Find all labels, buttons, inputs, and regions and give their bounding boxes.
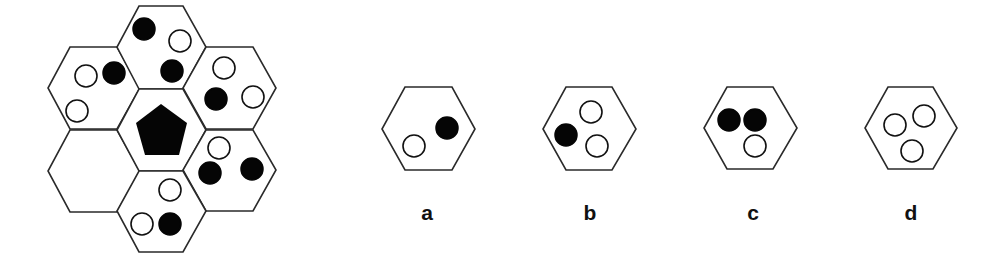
white-dot — [159, 179, 181, 201]
option-c[interactable]: c — [704, 87, 797, 224]
option-label: c — [747, 201, 759, 224]
black-dot — [205, 88, 227, 110]
white-dot — [901, 140, 923, 162]
white-dot — [403, 135, 425, 157]
option-label: b — [584, 201, 597, 224]
white-dot — [744, 135, 766, 157]
black-dot — [103, 62, 125, 84]
option-a[interactable]: a — [382, 87, 475, 224]
white-dot — [913, 105, 935, 127]
black-dot — [436, 117, 458, 139]
puzzle-canvas: a b c d — [0, 0, 1004, 254]
white-dot — [242, 86, 264, 108]
white-dot — [580, 101, 602, 123]
honeycomb-figure — [48, 6, 276, 252]
option-d[interactable]: d — [865, 87, 957, 224]
white-dot — [884, 114, 906, 136]
white-dot — [208, 137, 230, 159]
white-dot — [66, 100, 88, 122]
black-dot — [744, 109, 766, 131]
white-dot — [75, 65, 97, 87]
hexagon-outline — [382, 87, 475, 170]
black-dot — [555, 124, 577, 146]
black-dot — [718, 109, 740, 131]
white-dot — [169, 30, 191, 52]
white-dot — [586, 135, 608, 157]
black-dot — [241, 158, 263, 180]
option-label: d — [905, 201, 918, 224]
black-dot — [199, 162, 221, 184]
black-dot — [159, 213, 181, 235]
black-dot — [133, 18, 155, 40]
white-dot — [131, 213, 153, 235]
option-b[interactable]: b — [543, 87, 636, 224]
black-dot — [161, 60, 183, 82]
answer-options: a b c d — [382, 87, 957, 224]
option-label: a — [421, 201, 433, 224]
white-dot — [213, 57, 235, 79]
